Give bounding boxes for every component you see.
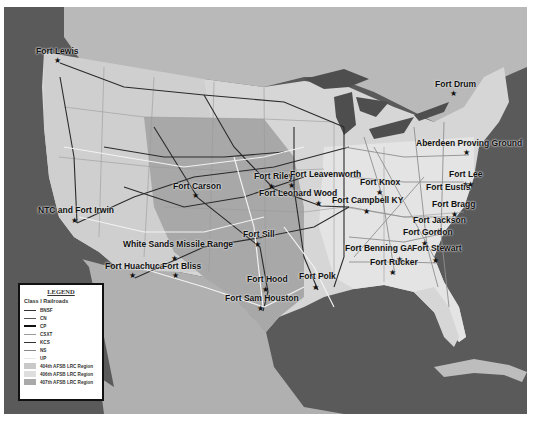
rail-line-icon (24, 358, 36, 359)
legend-item-cp: CP (24, 322, 98, 330)
star-icon: ★ (257, 305, 264, 313)
rail-line-icon (24, 318, 36, 319)
legend-item-bnsf: BNSF (24, 306, 98, 314)
legend-item-csxt: CSXT (24, 330, 98, 338)
star-icon: ★ (363, 208, 370, 216)
star-icon: ★ (463, 149, 470, 157)
label-fort-knox: Fort Knox (360, 178, 400, 187)
label-fort-jackson: Fort Jackson (413, 216, 466, 225)
label-fort-leavenworth: Fort Leavenworth (290, 170, 361, 179)
label-ntc-fort-irwin: NTC and Fort Irwin (38, 206, 114, 215)
star-icon: ★ (450, 90, 457, 98)
star-icon: ★ (172, 272, 179, 280)
legend-item-region-406: 406th AFSB LRC Region (24, 370, 98, 378)
label-fort-leonard-wood: Fort Leonard Wood (259, 189, 337, 198)
label-fort-bliss: Fort Bliss (162, 262, 201, 271)
label-fort-drum: Fort Drum (435, 80, 476, 89)
legend-title: LEGEND (24, 288, 98, 295)
label-fort-lee: Fort Lee (449, 170, 483, 179)
region-406 (319, 137, 474, 342)
star-icon: ★ (54, 57, 61, 65)
legend-item-ns: NS (24, 346, 98, 354)
star-icon: ★ (389, 269, 396, 277)
star-icon: ★ (192, 192, 199, 200)
rail-line-icon (24, 350, 36, 351)
map-legend: LEGEND Class I Railroads BNSF CN CP CSXT… (18, 283, 104, 401)
rail-line-icon (24, 334, 36, 335)
star-icon: ★ (467, 181, 474, 189)
label-aberdeen-proving-ground: Aberdeen Proving Ground (416, 139, 522, 148)
region-swatch-icon (24, 379, 36, 385)
label-fort-lewis: Fort Lewis (36, 47, 79, 56)
label-fort-sill: Fort Sill (243, 230, 275, 239)
label-fort-eustis: Fort Eustis (426, 183, 470, 192)
rail-line-icon (24, 310, 36, 311)
legend-item-kcs: KCS (24, 338, 98, 346)
label-white-sands: White Sands Missile Range (123, 240, 233, 249)
label-fort-rucker: Fort Rucker (370, 258, 418, 267)
label-fort-hood: Fort Hood (247, 275, 288, 284)
rail-line-icon (24, 325, 36, 327)
label-fort-sam-houston: Fort Sam Houston (225, 294, 299, 303)
label-fort-benning: Fort Benning GA (345, 244, 413, 253)
legend-item-up: UP (24, 354, 98, 362)
legend-subtitle: Class I Railroads (24, 298, 98, 304)
label-fort-stewart: Fort Stewart (412, 244, 462, 253)
star-icon: ★ (315, 200, 322, 208)
label-fort-gordon: Fort Gordon (403, 228, 453, 237)
region-swatch-icon (24, 371, 36, 377)
label-fort-huachuca: Fort Huachuca (105, 262, 165, 271)
star-icon: ★ (71, 217, 78, 225)
label-fort-riley: Fort Riley (254, 172, 293, 181)
label-fort-carson: Fort Carson (173, 182, 221, 191)
legend-item-region-407: 407th AFSB LRC Region (24, 378, 98, 386)
legend-item-region-404: 404th AFSB LRC Region (24, 362, 98, 370)
label-fort-polk: Fort Polk (299, 272, 336, 281)
star-icon: ★ (129, 272, 136, 280)
star-icon: ★ (432, 257, 439, 265)
legend-item-cn: CN (24, 314, 98, 322)
label-fort-campbell: Fort Campbell KY (332, 196, 403, 205)
cuba (434, 359, 527, 382)
region-swatch-icon (24, 363, 36, 369)
label-fort-bragg: Fort Bragg (432, 200, 475, 209)
star-icon: ★ (312, 284, 319, 292)
star-icon: ★ (254, 241, 261, 249)
rail-line-icon (24, 342, 36, 343)
